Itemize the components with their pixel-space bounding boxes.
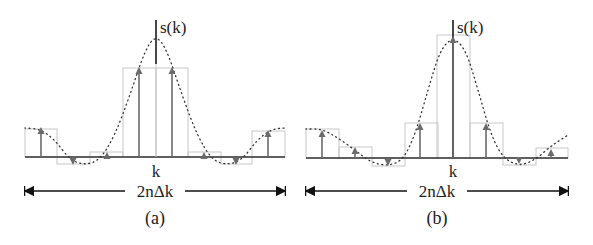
panel-caption: (b) xyxy=(427,208,448,229)
arrow-up-icon xyxy=(104,152,111,159)
y-axis-label: s(k) xyxy=(160,18,186,37)
arrow-up-icon xyxy=(548,149,555,156)
arrow-up-icon xyxy=(417,123,424,130)
arrow-up-icon xyxy=(483,123,490,130)
diagram-canvas: s(k)k2nΔk(a) s(k)k2nΔk(b) xyxy=(0,0,593,245)
y-axis-label: s(k) xyxy=(457,18,483,37)
span-label: 2nΔk xyxy=(419,182,456,201)
arrow-up-icon xyxy=(38,127,45,134)
arrow-up-icon xyxy=(450,36,457,43)
panel-b: s(k)k2nΔk(b) xyxy=(306,18,568,229)
continuous-signal-curve xyxy=(25,39,285,164)
span-label: 2nΔk xyxy=(137,182,174,201)
panel-caption: (a) xyxy=(145,208,165,229)
arrow-down-icon xyxy=(516,157,523,164)
x-axis-label: k xyxy=(449,162,458,181)
arrow-up-icon xyxy=(352,147,359,154)
panel-a: s(k)k2nΔk(a) xyxy=(25,18,285,229)
x-axis-label: k xyxy=(152,162,161,181)
arrow-up-icon xyxy=(201,152,208,159)
